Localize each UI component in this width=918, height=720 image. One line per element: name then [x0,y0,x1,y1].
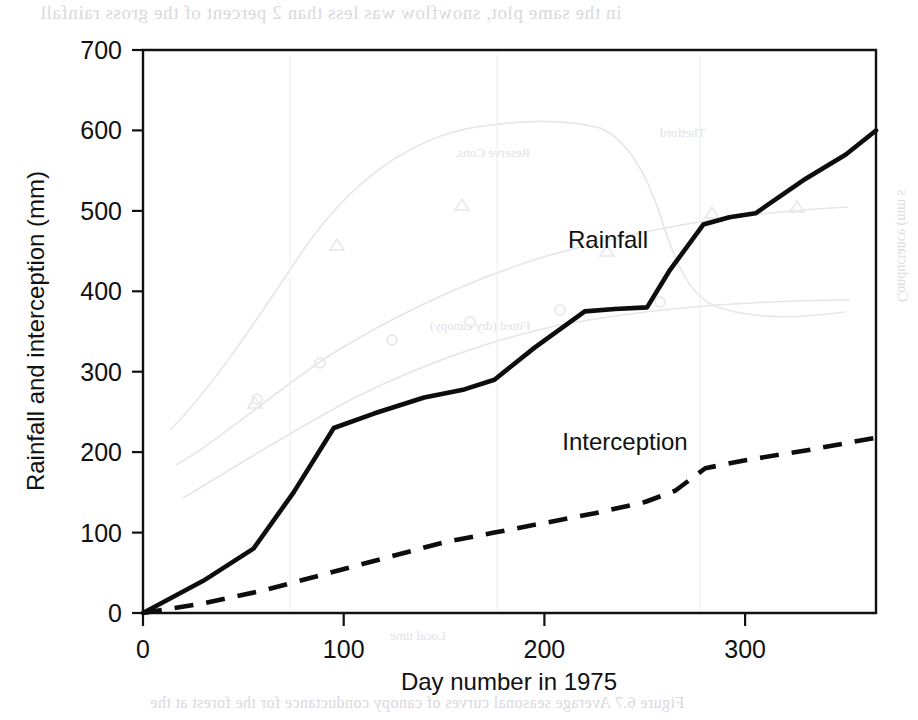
series-annotation-interception: Interception [562,428,687,455]
x-axis: 0 100 200 300 [136,613,766,663]
y-tick-label: 0 [108,599,122,627]
series-line-rainfall [143,130,876,613]
x-axis-title: Day number in 1975 [401,668,617,695]
y-tick-label: 600 [80,116,122,144]
y-tick-label: 300 [80,358,122,386]
x-tick-label: 0 [136,635,150,663]
x-tick-200: 200 [524,613,566,663]
y-tick-label: 500 [80,197,122,225]
x-tick-label: 200 [524,635,566,663]
bleedthrough-curves [170,55,850,610]
chart-container: 0 100 200 300 400 500 [0,0,918,720]
y-tick-100: 100 [80,519,143,547]
y-tick-label: 200 [80,438,122,466]
y-tick-400: 400 [80,277,143,305]
y-axis-title: Rainfall and interception (mm) [22,171,49,491]
x-tick-0: 0 [136,613,150,663]
series-annotation-rainfall: Rainfall [568,226,648,253]
y-tick-label: 400 [80,277,122,305]
y-tick-0: 0 [108,599,143,627]
x-tick-label: 100 [323,635,365,663]
y-tick-600: 600 [80,116,143,144]
series-line-interception [143,438,876,613]
rainfall-interception-chart: 0 100 200 300 400 500 [0,0,918,720]
y-tick-300: 300 [80,358,143,386]
y-tick-200: 200 [80,438,143,466]
y-tick-700: 700 [80,36,143,64]
y-tick-500: 500 [80,197,143,225]
plot-frame [143,50,876,613]
x-tick-100: 100 [323,613,365,663]
y-axis: 0 100 200 300 400 500 [80,36,143,627]
y-tick-label: 700 [80,36,122,64]
y-tick-label: 100 [80,519,122,547]
x-tick-300: 300 [724,613,766,663]
x-tick-label: 300 [724,635,766,663]
